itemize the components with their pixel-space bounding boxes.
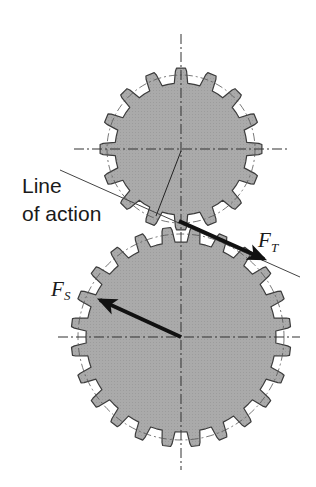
force-fs-subscript: S [64,288,71,303]
force-fs-symbol: F [50,277,64,301]
force-ft-symbol: F [257,228,271,252]
gear-mesh-diagram: Line of action F T F S [0,0,316,487]
line-of-action-label-line2: of action [22,202,101,225]
line-of-action-label-line1: Line [22,174,62,197]
force-ft-subscript: T [271,240,279,255]
